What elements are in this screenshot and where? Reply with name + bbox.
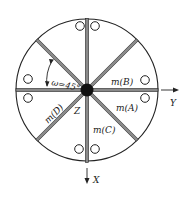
axis-x-label: X	[92, 175, 100, 185]
axis-x: X	[85, 168, 101, 185]
arrow-down-icon	[85, 178, 90, 184]
mass-a-label: m(A)	[116, 103, 139, 113]
rotor-diagram: ω=45° m(B) m(A) m(C) m(D) Z Y X	[0, 0, 190, 198]
arrow-right-icon	[173, 88, 179, 93]
angle-arrowhead-top-icon	[49, 59, 54, 64]
hole-right-bottom	[141, 94, 150, 103]
hub	[81, 84, 94, 97]
axis-z-label: Z	[73, 106, 81, 116]
hole-bottom-right	[91, 145, 100, 154]
hole-bottom-left	[75, 145, 84, 154]
mass-c-label: m(C)	[93, 125, 116, 135]
hole-top-right	[91, 22, 100, 31]
mass-b-label: m(B)	[111, 77, 134, 87]
axis-y: Y	[161, 88, 179, 109]
hole-right-top	[141, 76, 150, 85]
hole-top-left	[76, 22, 85, 31]
angle-arrowhead-icon	[45, 81, 50, 87]
hole-left-top	[24, 75, 33, 84]
axis-y-label: Y	[170, 98, 177, 108]
hole-left-bottom	[24, 94, 33, 103]
